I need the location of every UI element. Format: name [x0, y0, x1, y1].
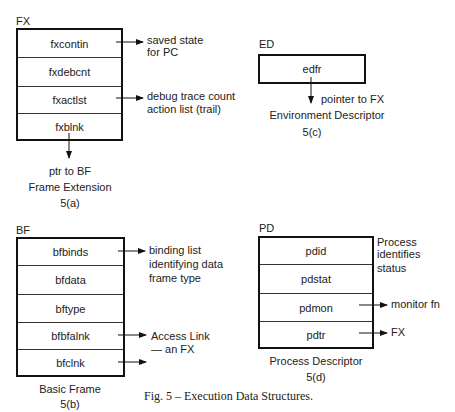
arrows-layer	[0, 0, 455, 412]
